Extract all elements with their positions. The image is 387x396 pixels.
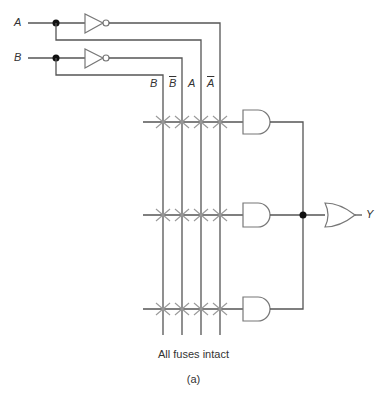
bus-label-not-a: A — [207, 78, 214, 89]
and-gate-3 — [243, 297, 270, 321]
subcaption: (a) — [0, 373, 387, 385]
input-b-label: B — [14, 52, 21, 63]
inverter-b — [85, 49, 103, 68]
bus-a — [56, 23, 201, 335]
pla-circuit-diagram — [0, 0, 387, 396]
inverter-b-bubble — [103, 55, 109, 61]
bus-label-not-b: B — [169, 78, 176, 89]
inverter-a-bubble — [103, 20, 109, 26]
bus-label-b: B — [150, 78, 157, 89]
input-a-label: A — [14, 17, 21, 28]
bus-not-a — [109, 23, 220, 335]
junction-or — [300, 212, 307, 219]
output-y-label: Y — [366, 209, 373, 220]
bus-b — [56, 58, 163, 335]
bus-label-a: A — [188, 78, 195, 89]
and-gate-2 — [243, 203, 270, 227]
or-gate — [325, 203, 355, 227]
bus-not-b — [109, 58, 182, 335]
inverter-a — [85, 14, 103, 33]
caption: All fuses intact — [0, 348, 387, 360]
and-gate-1 — [243, 110, 270, 134]
